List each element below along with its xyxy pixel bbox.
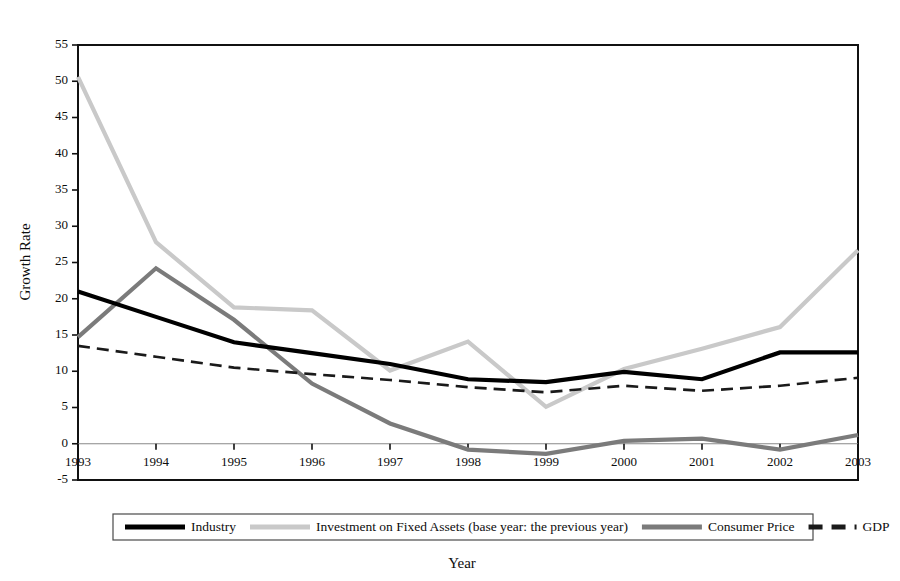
y-axis-title: Growth Rate: [17, 223, 33, 300]
legend-label-2: Consumer Price: [708, 519, 795, 534]
y-tick-label: 45: [55, 108, 68, 123]
y-tick-label: 35: [55, 181, 68, 196]
legend-label-1: Investment on Fixed Assets (base year: t…: [316, 519, 628, 534]
x-tick-label: 2003: [845, 454, 871, 469]
chart-legend: IndustryInvestment on Fixed Assets (base…: [113, 514, 890, 540]
y-tick-label: 50: [55, 72, 68, 87]
plot-frame: [78, 45, 858, 480]
y-tick-label: 40: [55, 145, 68, 160]
y-tick-label: 15: [55, 326, 68, 341]
series-lines: [78, 77, 858, 454]
x-tick-label: 1998: [455, 454, 481, 469]
x-tick-label: 2000: [611, 454, 637, 469]
x-tick-label: 1993: [65, 454, 91, 469]
legend-label-3: GDP: [863, 519, 890, 534]
y-tick-label: 25: [55, 253, 68, 268]
y-tick-label: 0: [62, 435, 69, 450]
x-tick-label: 1996: [299, 454, 326, 469]
x-tick-label: 2001: [689, 454, 715, 469]
y-tick-label: 55: [55, 36, 68, 51]
x-tick-label: 2002: [767, 454, 793, 469]
x-tick-label: 1994: [143, 454, 170, 469]
y-tick-label: 30: [55, 217, 68, 232]
x-tick-label: 1997: [377, 454, 404, 469]
legend-label-0: Industry: [191, 519, 236, 534]
y-axis-tick-labels: -50510152025303540455055: [55, 36, 68, 486]
y-tick-label: 20: [55, 290, 68, 305]
x-axis-tick-labels: 1993199419951996199719981999200020012002…: [65, 454, 871, 469]
chart-page: -50510152025303540455055 199319941995199…: [0, 0, 900, 581]
growth-rate-line-chart: -50510152025303540455055 199319941995199…: [0, 0, 900, 581]
y-tick-label: 5: [62, 398, 69, 413]
series-line-3: [78, 346, 858, 392]
y-tick-label: 10: [55, 362, 68, 377]
x-tick-label: 1995: [221, 454, 247, 469]
y-tick-label: -5: [57, 471, 68, 486]
series-line-1: [78, 77, 858, 407]
x-tick-label: 1999: [533, 454, 559, 469]
x-axis-title: Year: [448, 555, 476, 571]
